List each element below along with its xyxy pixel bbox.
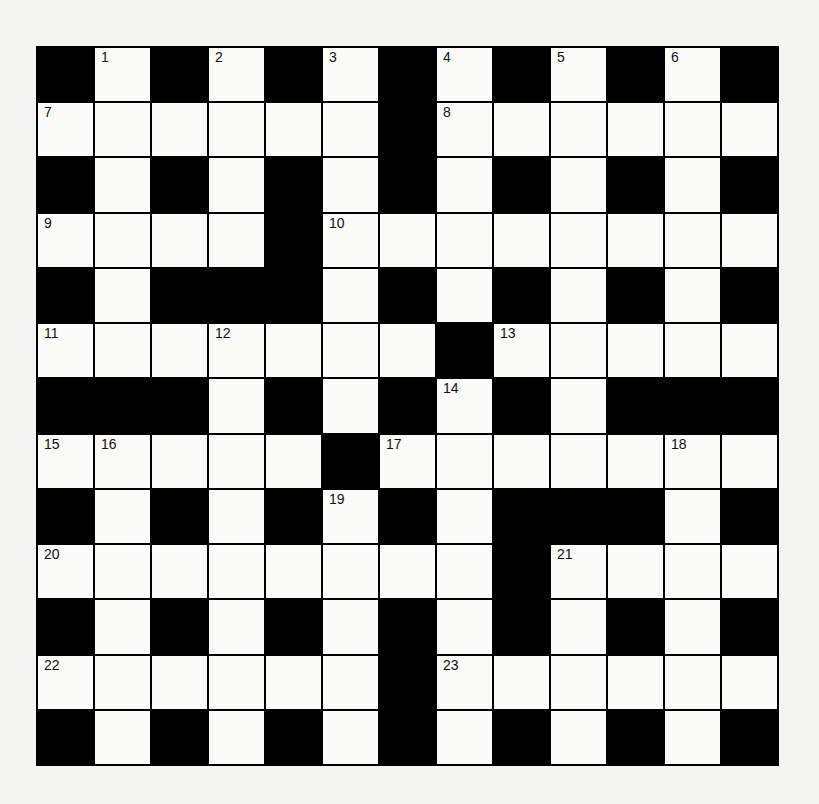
grid-cell[interactable] <box>722 214 777 267</box>
grid-cell[interactable]: 3 <box>323 48 378 101</box>
grid-cell[interactable]: 4 <box>437 48 492 101</box>
grid-cell[interactable] <box>608 214 663 267</box>
grid-cell[interactable] <box>95 158 150 211</box>
grid-cell[interactable] <box>665 545 720 598</box>
grid-cell[interactable]: 12 <box>209 324 264 377</box>
grid-cell[interactable] <box>323 269 378 322</box>
grid-cell[interactable] <box>722 545 777 598</box>
grid-cell[interactable] <box>551 656 606 709</box>
grid-cell[interactable] <box>437 269 492 322</box>
grid-cell[interactable]: 22 <box>38 656 93 709</box>
grid-cell[interactable] <box>209 711 264 764</box>
grid-cell[interactable] <box>551 214 606 267</box>
grid-cell[interactable] <box>209 600 264 653</box>
grid-cell[interactable] <box>95 711 150 764</box>
grid-cell[interactable]: 17 <box>380 435 435 488</box>
grid-cell[interactable] <box>551 711 606 764</box>
grid-cell[interactable] <box>209 214 264 267</box>
grid-cell[interactable] <box>152 656 207 709</box>
grid-cell[interactable] <box>665 656 720 709</box>
grid-cell[interactable] <box>494 656 549 709</box>
grid-cell[interactable] <box>494 435 549 488</box>
grid-cell[interactable] <box>95 600 150 653</box>
grid-cell[interactable] <box>323 711 378 764</box>
grid-cell[interactable] <box>665 490 720 543</box>
grid-cell[interactable] <box>608 435 663 488</box>
grid-cell[interactable] <box>209 103 264 156</box>
grid-cell[interactable] <box>437 711 492 764</box>
grid-cell[interactable]: 18 <box>665 435 720 488</box>
grid-cell[interactable] <box>152 324 207 377</box>
grid-cell[interactable] <box>608 656 663 709</box>
grid-cell[interactable]: 21 <box>551 545 606 598</box>
grid-cell[interactable] <box>323 600 378 653</box>
grid-cell[interactable] <box>95 214 150 267</box>
grid-cell[interactable]: 2 <box>209 48 264 101</box>
grid-cell[interactable] <box>95 656 150 709</box>
grid-cell[interactable] <box>551 600 606 653</box>
grid-cell[interactable] <box>323 379 378 432</box>
grid-cell[interactable]: 7 <box>38 103 93 156</box>
grid-cell[interactable] <box>95 103 150 156</box>
grid-cell[interactable] <box>551 269 606 322</box>
grid-cell[interactable] <box>323 545 378 598</box>
grid-cell[interactable]: 20 <box>38 545 93 598</box>
grid-cell[interactable] <box>266 103 321 156</box>
grid-cell[interactable] <box>152 545 207 598</box>
grid-cell[interactable] <box>665 600 720 653</box>
grid-cell[interactable] <box>380 214 435 267</box>
grid-cell[interactable] <box>323 324 378 377</box>
grid-cell[interactable]: 10 <box>323 214 378 267</box>
grid-cell[interactable] <box>152 103 207 156</box>
grid-cell[interactable] <box>209 490 264 543</box>
grid-cell[interactable] <box>437 435 492 488</box>
grid-cell[interactable]: 5 <box>551 48 606 101</box>
grid-cell[interactable] <box>380 324 435 377</box>
grid-cell[interactable] <box>608 545 663 598</box>
grid-cell[interactable] <box>266 435 321 488</box>
grid-cell[interactable] <box>152 435 207 488</box>
grid-cell[interactable] <box>380 545 435 598</box>
grid-cell[interactable]: 9 <box>38 214 93 267</box>
grid-cell[interactable] <box>95 545 150 598</box>
grid-cell[interactable] <box>323 158 378 211</box>
grid-cell[interactable]: 11 <box>38 324 93 377</box>
grid-cell[interactable] <box>551 379 606 432</box>
grid-cell[interactable]: 19 <box>323 490 378 543</box>
grid-cell[interactable] <box>665 269 720 322</box>
grid-cell[interactable]: 15 <box>38 435 93 488</box>
grid-cell[interactable] <box>722 103 777 156</box>
grid-cell[interactable] <box>665 103 720 156</box>
grid-cell[interactable] <box>437 545 492 598</box>
grid-cell[interactable]: 23 <box>437 656 492 709</box>
grid-cell[interactable] <box>494 214 549 267</box>
grid-cell[interactable] <box>551 103 606 156</box>
grid-cell[interactable] <box>665 214 720 267</box>
grid-cell[interactable] <box>209 435 264 488</box>
grid-cell[interactable] <box>722 435 777 488</box>
grid-cell[interactable] <box>95 490 150 543</box>
grid-cell[interactable] <box>266 324 321 377</box>
grid-cell[interactable] <box>722 324 777 377</box>
grid-cell[interactable]: 1 <box>95 48 150 101</box>
grid-cell[interactable] <box>266 545 321 598</box>
grid-cell[interactable] <box>665 324 720 377</box>
grid-cell[interactable] <box>209 379 264 432</box>
grid-cell[interactable] <box>323 656 378 709</box>
grid-cell[interactable]: 16 <box>95 435 150 488</box>
grid-cell[interactable] <box>494 103 549 156</box>
grid-cell[interactable] <box>437 158 492 211</box>
grid-cell[interactable] <box>608 324 663 377</box>
grid-cell[interactable] <box>266 656 321 709</box>
grid-cell[interactable] <box>437 214 492 267</box>
grid-cell[interactable] <box>437 600 492 653</box>
grid-cell[interactable] <box>152 214 207 267</box>
grid-cell[interactable] <box>209 158 264 211</box>
grid-cell[interactable] <box>551 324 606 377</box>
grid-cell[interactable] <box>209 545 264 598</box>
grid-cell[interactable] <box>437 490 492 543</box>
grid-cell[interactable]: 8 <box>437 103 492 156</box>
grid-cell[interactable] <box>551 435 606 488</box>
grid-cell[interactable] <box>665 158 720 211</box>
grid-cell[interactable]: 13 <box>494 324 549 377</box>
